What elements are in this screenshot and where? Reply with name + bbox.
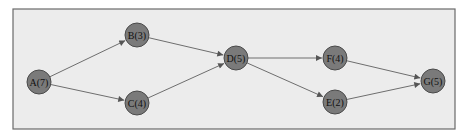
network-diagram: A(7)B(3)C(4)D(5)F(4)E(2)G(5) (0, 0, 470, 135)
node-label: D(5) (227, 53, 246, 65)
node-label: A(7) (30, 77, 49, 89)
node-b: B(3) (125, 23, 149, 47)
node-label: B(3) (128, 30, 146, 42)
node-e: E(2) (323, 90, 347, 114)
node-f: F(4) (323, 46, 347, 70)
node-d: D(5) (224, 46, 248, 70)
node-a: A(7) (27, 70, 51, 94)
node-label: F(4) (326, 53, 343, 65)
node-c: C(4) (125, 91, 149, 115)
node-label: E(2) (326, 97, 344, 109)
node-g: G(5) (421, 69, 445, 93)
node-label: C(4) (128, 98, 146, 110)
node-label: G(5) (424, 76, 443, 88)
